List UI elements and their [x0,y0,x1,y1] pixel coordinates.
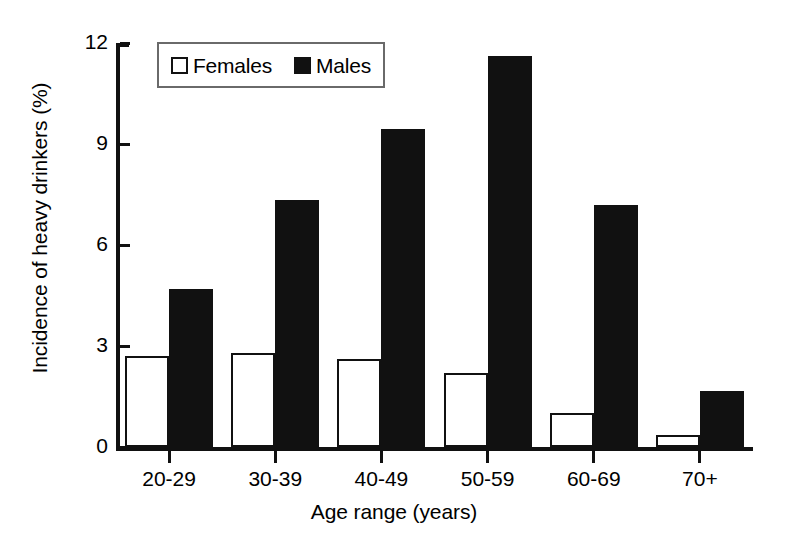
bar-males-60-69 [594,205,638,447]
bar-males-40-49 [381,129,425,447]
x-tick [698,451,701,463]
x-tick-label: 40-49 [321,467,441,491]
x-tick [274,451,277,463]
x-tick [592,451,595,463]
x-tick [380,451,383,463]
y-tick [120,345,130,348]
x-axis-title: Age range (years) [0,500,788,524]
y-tick-label: 6 [68,232,108,256]
legend-label-males: Males [316,55,371,76]
x-tick-label: 70+ [640,467,760,491]
bar-males-20-29 [169,289,213,447]
x-tick [486,451,489,463]
legend-label-females: Females [193,55,272,76]
x-tick [168,451,171,463]
bar-males-50-59 [488,56,532,447]
x-tick-label: 20-29 [109,467,229,491]
y-tick-label: 0 [68,434,108,458]
y-tick [120,143,130,146]
bar-males-70+ [700,391,744,447]
y-tick [120,42,130,45]
y-tick-label: 12 [68,30,108,54]
legend-item-males: Males [294,55,371,76]
bar-females-70+ [656,435,700,447]
y-tick-label: 3 [68,333,108,357]
legend-item-females: Females [171,55,272,76]
bar-females-40-49 [337,359,381,447]
bar-females-20-29 [125,356,169,447]
x-tick-label: 60-69 [534,467,654,491]
y-tick-label: 9 [68,131,108,155]
bar-chart: Incidence of heavy drinkers (%) 20-2930-… [0,0,788,557]
plot-area: 20-2930-3940-4950-5960-6970+ [116,43,753,447]
bar-females-50-59 [444,373,488,447]
legend: Females Males [157,42,385,88]
filled-square-icon [294,57,311,74]
bar-females-60-69 [550,413,594,447]
y-axis-title: Incidence of heavy drinkers (%) [28,18,52,438]
x-tick-label: 30-39 [215,467,335,491]
bar-females-30-39 [231,353,275,447]
open-square-icon [171,57,188,74]
y-tick [120,244,130,247]
x-tick-label: 50-59 [428,467,548,491]
x-axis-line [116,447,753,451]
bar-males-30-39 [275,200,319,447]
